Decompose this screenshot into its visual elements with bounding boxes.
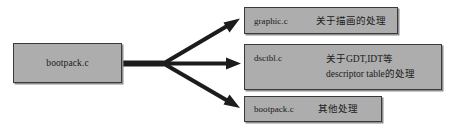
diagram-canvas: bootpack.c graphic.c 关于描画的处理 dsctbl.c 关于… xyxy=(0,0,453,127)
source-box-label: bootpack.c xyxy=(46,57,88,69)
target-box-bootpack-content: bootpack.c 其他处理 xyxy=(245,97,381,115)
target-box-dsctbl[interactable]: dsctbl.c 关于GDT,IDT等 descriptor table的处理 xyxy=(244,44,442,90)
target-description-graphic: 关于描画的处理 xyxy=(316,15,386,27)
target-box-graphic[interactable]: graphic.c 关于描画的处理 xyxy=(244,7,398,34)
target-description-dsctbl-line2: descriptor table的处理 xyxy=(326,67,415,82)
connector-stub xyxy=(123,61,164,67)
target-file-name-graphic: graphic.c xyxy=(254,15,316,27)
arrow-to-graphic xyxy=(164,19,241,64)
arrow-to-bootpack xyxy=(164,64,241,109)
target-box-dsctbl-content: dsctbl.c 关于GDT,IDT等 descriptor table的处理 xyxy=(245,45,441,82)
target-file-name-bootpack: bootpack.c xyxy=(254,103,318,115)
target-description-dsctbl-line1: 关于GDT,IDT等 xyxy=(326,52,415,67)
target-box-graphic-content: graphic.c 关于描画的处理 xyxy=(245,8,397,27)
source-box-bootpack[interactable]: bootpack.c xyxy=(13,43,122,83)
arrow-to-dsctbl xyxy=(164,58,242,70)
target-file-name-dsctbl: dsctbl.c xyxy=(254,52,326,64)
target-box-bootpack[interactable]: bootpack.c 其他处理 xyxy=(244,96,382,122)
target-description-dsctbl: 关于GDT,IDT等 descriptor table的处理 xyxy=(326,52,415,82)
target-description-bootpack: 其他处理 xyxy=(318,103,358,115)
